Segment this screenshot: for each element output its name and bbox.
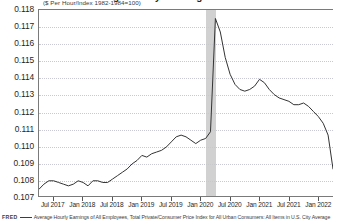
y-tick-label: 0.113	[14, 89, 34, 99]
x-tick-label: Jan 2019	[128, 201, 154, 208]
x-tick-label: Jan 2018	[69, 201, 95, 208]
y-tick-label: 0.107	[14, 192, 34, 202]
y-tick-label: 0.109	[14, 158, 34, 168]
y-tick-label: 0.114	[14, 72, 34, 82]
plot-area	[38, 9, 333, 197]
x-axis: Jul 2017Jan 2018Jul 2018Jan 2019Jul 2019…	[38, 197, 333, 213]
x-tick-label: Jul 2018	[100, 201, 124, 208]
x-tick-label: Jul 2017	[41, 201, 65, 208]
chart-source-footer: FREDAverage Hourly Earnings of All Emplo…	[2, 214, 330, 220]
y-tick-label: 0.118	[14, 4, 34, 14]
y-tick-label: 0.110	[14, 141, 34, 151]
fred-chart: Real Average Hourly Earnings ($ Per Hour…	[0, 0, 337, 224]
y-tick-label: 0.112	[14, 107, 34, 117]
y-axis: 0.1070.1080.1090.1100.1110.1120.1130.114…	[0, 9, 36, 197]
y-tick-label: 0.115	[14, 55, 34, 65]
source-dash	[20, 217, 32, 218]
source-note: Average Hourly Earnings of All Employees…	[34, 214, 330, 220]
x-tick-label: Jan 2021	[246, 201, 272, 208]
series-line-real-average-hourly-earnings	[39, 10, 333, 196]
x-tick-label: Jul 2021	[277, 201, 301, 208]
y-tick-label: 0.117	[14, 21, 34, 31]
x-tick-label: Jul 2019	[159, 201, 183, 208]
y-tick-label: 0.108	[14, 175, 34, 185]
source-brand: FRED	[2, 214, 18, 220]
y-axis-units-label: ($ Per Hour/Index 1982-1984=100)	[43, 0, 141, 6]
y-tick-label: 0.111	[15, 124, 34, 134]
x-tick-label: Jul 2020	[218, 201, 242, 208]
x-tick-label: Jan 2020	[187, 201, 213, 208]
y-tick-label: 0.116	[14, 38, 34, 48]
x-tick-label: Jan 2022	[305, 201, 331, 208]
